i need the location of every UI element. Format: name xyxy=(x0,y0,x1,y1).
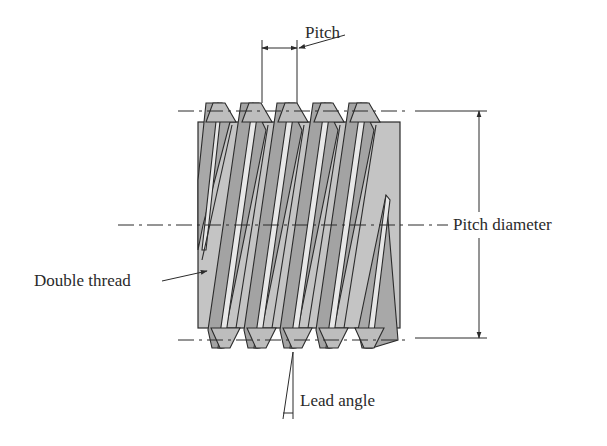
lead-angle-indicator xyxy=(283,352,293,419)
bottom-thread-crests xyxy=(211,328,384,348)
double-thread-label: Double thread xyxy=(34,272,131,289)
pitch-diameter-label: Pitch diameter xyxy=(453,216,552,233)
pitch-dimension xyxy=(262,35,345,103)
lead-angle-label: Lead angle xyxy=(300,392,375,409)
pitch-label: Pitch xyxy=(305,24,340,41)
